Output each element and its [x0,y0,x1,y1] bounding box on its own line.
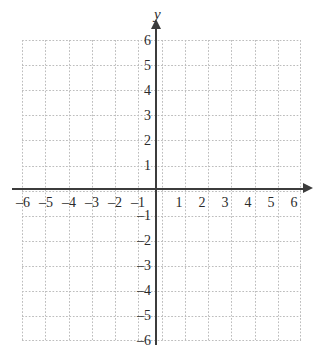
y-tick-label-neg1: –1 [127,209,151,223]
gridline-horizontal [22,291,301,292]
y-tick-label-1: 1 [133,159,151,173]
gridline-horizontal [22,140,301,141]
y-tick-label-5: 5 [133,59,151,73]
y-axis-label: y [154,7,161,22]
x-tick-label-neg2: –2 [108,196,122,210]
y-tick-label-neg4: –4 [127,284,151,298]
x-tick-label-2: 2 [199,196,206,210]
x-tick-label-neg4: –4 [62,196,76,210]
x-axis-arrow-icon [303,183,313,193]
y-tick-label-4: 4 [133,84,151,98]
coordinate-grid-figure: y –6 –5 –4 –3 –2 –1 1 2 3 4 5 6 6 5 4 3 … [0,0,322,356]
gridline-horizontal [22,65,301,66]
x-tick-label-1: 1 [176,196,183,210]
y-tick-label-neg3: –3 [127,259,151,273]
grid-plane [22,40,301,341]
gridline-horizontal [22,166,301,167]
x-tick-label-neg6: –6 [16,196,30,210]
gridline-horizontal [22,40,301,41]
gridline-horizontal [22,340,301,341]
x-tick-label-6: 6 [291,196,298,210]
y-tick-label-6: 6 [133,34,151,48]
y-tick-label-neg5: –5 [127,309,151,323]
gridline-horizontal [22,115,301,116]
x-tick-label-5: 5 [268,196,275,210]
y-tick-label-3: 3 [133,109,151,123]
gridline-horizontal [22,316,301,317]
y-tick-label-neg6: –6 [127,334,151,348]
gridline-horizontal [22,266,301,267]
y-tick-label-2: 2 [133,134,151,148]
x-axis-line [12,188,306,190]
x-tick-label-4: 4 [245,196,252,210]
gridline-horizontal [22,191,301,192]
y-axis-line [155,27,157,345]
gridline-horizontal [22,216,301,217]
y-tick-label-neg2: –2 [127,234,151,248]
gridline-horizontal [22,241,301,242]
x-tick-label-3: 3 [222,196,229,210]
x-tick-label-neg5: –5 [39,196,53,210]
x-tick-label-neg3: –3 [85,196,99,210]
gridline-horizontal [22,90,301,91]
